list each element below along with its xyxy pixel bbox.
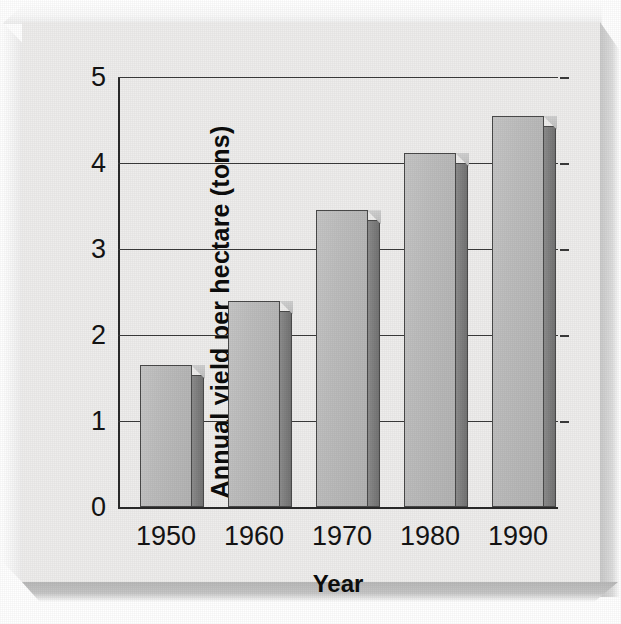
y-axis-tick-mark	[560, 77, 569, 79]
bar-front-face	[140, 365, 192, 507]
frame-shadow-right	[600, 22, 620, 597]
x-tick-label: 1990	[488, 521, 548, 552]
frame-highlight-top	[2, 2, 602, 24]
x-axis-line	[118, 507, 558, 509]
y-tick-label: 0	[91, 494, 106, 521]
bar-side-face	[544, 126, 556, 507]
y-tick-label: 5	[91, 64, 106, 91]
bar-side-face	[368, 220, 380, 507]
y-axis-tick-mark	[560, 163, 569, 165]
y-tick-label: 3	[91, 236, 106, 263]
bar-front-face	[316, 210, 368, 507]
bar	[140, 365, 192, 507]
x-tick-label: 1950	[136, 521, 196, 552]
bar	[492, 116, 544, 507]
bar-front-face	[492, 116, 544, 507]
bar	[316, 210, 368, 507]
bar-side-face	[456, 163, 468, 507]
y-axis-tick-mark	[560, 335, 569, 337]
y-tick-label: 2	[91, 322, 106, 349]
bar-front-face	[228, 301, 280, 507]
frame-highlight-left	[2, 22, 24, 584]
x-tick-label: 1960	[224, 521, 284, 552]
x-tick-label: 1970	[312, 521, 372, 552]
y-tick-label: 4	[91, 150, 106, 177]
y-axis-tick-mark	[560, 421, 569, 423]
bar	[228, 301, 280, 507]
bar-side-face	[280, 311, 292, 507]
x-axis-title: Year	[118, 570, 558, 598]
figure-container: Annual yield per hectare (tons) 012345 1…	[0, 0, 621, 624]
gridline	[118, 77, 558, 78]
bar-side-face	[192, 375, 204, 507]
bar	[404, 153, 456, 507]
plot-area: 012345	[118, 77, 558, 509]
y-tick-label: 1	[91, 408, 106, 435]
bar-front-face	[404, 153, 456, 507]
x-tick-label: 1980	[400, 521, 460, 552]
y-axis-line	[118, 77, 120, 509]
y-axis-tick-mark	[560, 249, 569, 251]
